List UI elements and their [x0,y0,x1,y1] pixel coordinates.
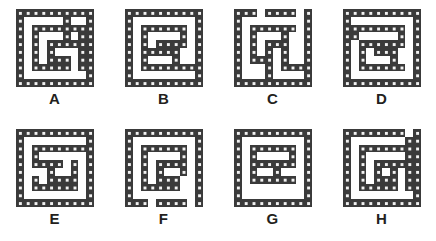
maze-wall-segment [234,79,312,87]
maze-label-c: C [267,91,278,106]
maze-wall-segment [125,79,203,87]
maze-wall-segment [304,129,312,207]
maze-wall-segment [31,145,86,153]
maze-wall-segment [265,160,273,168]
maze-label-g: G [267,211,279,226]
maze-wall-segment [125,129,133,207]
maze-wall-segment [249,176,296,184]
maze-walls [234,9,312,87]
maze-wall-segment [140,48,156,56]
maze-wall-segment [171,176,179,192]
maze-wall-segment [179,25,187,48]
maze-walls [125,129,203,207]
maze-wall-segment [140,64,195,72]
maze-cell-e[interactable]: E [0,120,109,240]
maze-wall-segment [350,25,358,41]
maze-wall-segment [389,160,397,183]
maze-figure-d [343,8,421,88]
maze-puzzle-sheet: ABCDEFGH [0,0,436,241]
maze-figure-f [125,128,203,208]
maze-wall-segment [195,9,203,87]
maze-wall-segment [265,9,296,17]
maze-wall-segment [343,79,421,87]
maze-wall-segment [16,9,94,17]
maze-walls [234,129,312,207]
maze-wall-segment [16,129,24,207]
maze-label-a: A [49,91,60,106]
maze-wall-segment [265,64,273,80]
maze-wall-segment [125,9,133,87]
maze-cell-d[interactable]: D [327,0,436,120]
maze-wall-segment [358,64,405,72]
maze-wall-segment [16,9,24,87]
maze-wall-segment [343,9,421,17]
maze-wall-segment [156,199,187,207]
maze-cell-c[interactable]: C [218,0,327,120]
maze-figure-b [125,8,203,88]
maze-grid: ABCDEFGH [0,0,436,240]
maze-wall-segment [86,129,94,207]
maze-walls [16,9,94,87]
maze-wall-segment [125,129,203,137]
maze-wall-segment [70,160,78,191]
maze-wall-segment [343,9,351,87]
maze-wall-segment [288,145,296,168]
maze-wall-segment [86,9,94,87]
maze-wall-segment [350,25,405,33]
maze-wall-segment [405,137,413,192]
maze-wall-segment [31,184,70,192]
maze-wall-segment [195,129,203,207]
maze-label-e: E [49,211,59,226]
maze-wall-segment [16,129,94,137]
maze-wall-segment [16,199,94,207]
maze-walls [343,129,421,207]
maze-wall-segment [179,145,187,176]
maze-wall-segment [413,9,421,87]
maze-wall-segment [234,199,312,207]
maze-wall-segment [304,9,312,87]
maze-wall-segment [343,129,405,137]
maze-walls [125,9,203,87]
maze-cell-f[interactable]: F [109,120,218,240]
maze-wall-segment [234,129,242,207]
maze-label-h: H [376,211,387,226]
maze-figure-a [16,8,94,88]
maze-wall-segment [280,25,288,64]
maze-wall-segment [234,9,242,87]
maze-wall-segment [125,199,148,207]
maze-wall-segment [16,79,94,87]
maze-wall-segment [171,40,179,63]
maze-wall-segment [62,17,70,48]
maze-wall-segment [125,9,203,17]
maze-wall-segment [397,25,405,48]
maze-wall-segment [140,184,171,192]
maze-label-f: F [159,211,168,226]
maze-wall-segment [249,160,265,168]
maze-wall-segment [358,184,397,192]
maze-wall-segment [78,32,86,71]
maze-figure-g [234,128,312,208]
maze-figure-e [16,128,94,208]
maze-cell-g[interactable]: G [218,120,327,240]
maze-walls [16,129,94,207]
maze-walls [343,9,421,87]
maze-wall-segment [343,129,351,207]
maze-label-b: B [158,91,169,106]
maze-wall-segment [31,25,86,33]
maze-wall-segment [389,48,397,71]
maze-cell-b[interactable]: B [109,0,218,120]
maze-cell-a[interactable]: A [0,0,109,120]
maze-wall-segment [62,56,70,72]
maze-label-d: D [376,91,387,106]
maze-figure-h [343,128,421,208]
maze-wall-segment [234,129,312,137]
maze-cell-h[interactable]: H [327,120,436,240]
maze-wall-segment [413,129,421,207]
maze-wall-segment [343,199,421,207]
maze-figure-c [234,8,312,88]
maze-wall-segment [280,64,303,72]
maze-wall-segment [273,160,281,176]
